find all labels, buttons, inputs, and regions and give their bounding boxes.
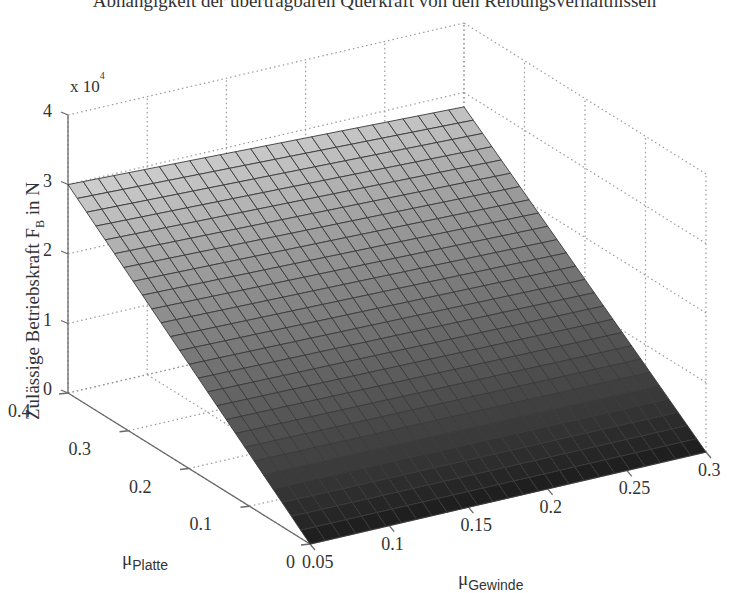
x-tick-label: 0.1 xyxy=(381,534,404,555)
y-tick-label: 0.3 xyxy=(69,439,92,460)
z-axis-multiplier: x 104 xyxy=(70,76,105,97)
x-tick-label: 0.25 xyxy=(619,478,651,499)
chart-title: Abhängigkeit der übertragbaren Querkraft… xyxy=(0,0,749,12)
z-tick-label: 1 xyxy=(43,310,52,331)
y-tick-label: 0.2 xyxy=(129,477,152,498)
z-tick-label: 2 xyxy=(43,240,52,261)
x-tick-label: 0.15 xyxy=(460,515,492,536)
y-axis-label: μPlatte xyxy=(122,548,168,573)
surface-mesh xyxy=(68,107,706,544)
z-tick-label: 4 xyxy=(43,101,52,122)
z-tick-label: 3 xyxy=(43,171,52,192)
y-tick-label: 0.4 xyxy=(8,401,31,422)
x-tick-label: 0.3 xyxy=(698,460,721,481)
x-tick-label: 0.2 xyxy=(540,497,563,518)
y-tick-label: 0.1 xyxy=(190,514,213,535)
y-tick-label: 0 xyxy=(286,552,295,573)
x-tick-label: 0.05 xyxy=(302,552,334,573)
x-axis-label: μGewinde xyxy=(458,568,523,593)
z-tick-label: 0 xyxy=(43,379,52,400)
